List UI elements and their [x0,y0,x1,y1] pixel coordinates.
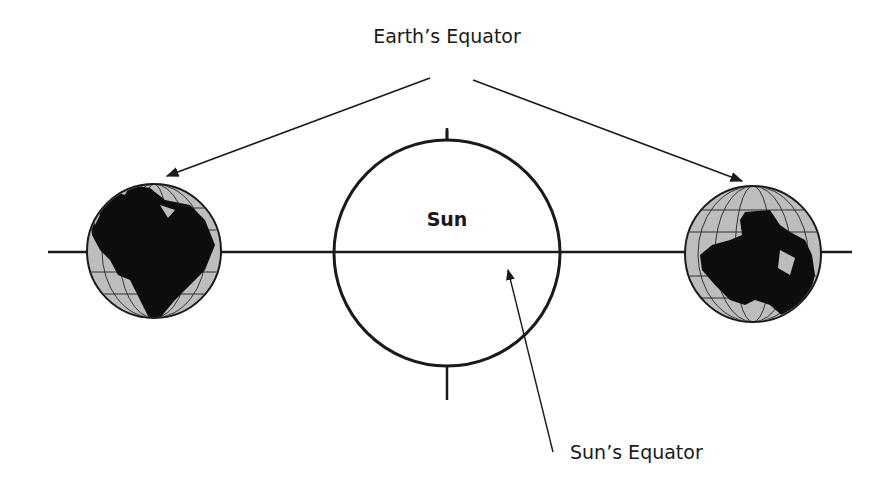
left-earth-globe [87,184,222,320]
earth-equator-arrow-left [167,78,430,176]
right-earth-globe [685,186,821,322]
earth-equator-arrow-right [473,80,742,181]
sun [334,130,560,400]
sun-equator-arrow [508,270,553,452]
sun-label: Sun [397,208,497,230]
earth-equator-label: Earth’s Equator [347,25,547,47]
diagram-canvas [0,0,894,495]
sun-equator-label: Sun’s Equator [570,441,703,463]
